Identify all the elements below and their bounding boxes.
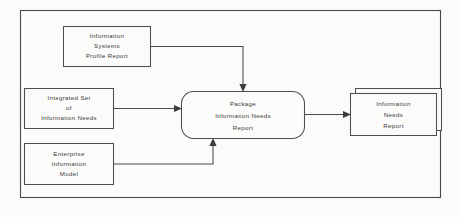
node-enterprise-information-model[interactable]: Enterprise Information Model: [25, 144, 114, 185]
process-label-line-3: Report: [233, 124, 253, 131]
flow-needs-set-to-process: [114, 105, 182, 112]
node-label-line-3: Model: [60, 170, 78, 177]
node-label-line-2: Systems: [94, 42, 120, 49]
node-information-needs-report[interactable]: Information Needs Report: [351, 89, 442, 136]
node-label-line-3: Profile Report: [86, 52, 128, 59]
node-label-line-1: Information: [90, 32, 124, 39]
document-label-line-2: Needs: [384, 111, 403, 118]
process-label-line-2: Information Needs: [215, 112, 271, 119]
node-label-line-1: Integrated Set: [47, 94, 90, 101]
node-information-systems-profile-report[interactable]: Information Systems Profile Report: [64, 27, 151, 67]
document-label-line-1: Information: [376, 100, 410, 107]
flow-process-to-report: [305, 111, 351, 118]
document-label-line-3: Report: [383, 122, 403, 129]
node-package-information-needs-report[interactable]: Package Information Needs Report: [182, 92, 305, 139]
flow-profile-report-to-process: [151, 47, 247, 93]
node-integrated-set-of-information-needs[interactable]: Integrated Set of Information Needs: [25, 89, 114, 129]
flow-arrowhead: [174, 105, 182, 112]
node-label-line-1: Enterprise: [53, 150, 85, 157]
node-label-line-3: Information Needs: [41, 114, 97, 121]
flow-path: [151, 47, 243, 87]
flow-enterprise-model-to-process: [114, 138, 217, 164]
process-label-line-1: Package: [230, 100, 256, 107]
node-label-line-2: Information: [52, 160, 86, 167]
flow-arrowhead: [343, 111, 351, 118]
node-label-line-2: of: [66, 104, 72, 111]
flow-arrowhead: [209, 138, 216, 146]
flow-path: [114, 144, 213, 164]
diagram-canvas: Information Systems Profile Report Integ…: [0, 0, 461, 217]
flow-arrowhead: [239, 84, 246, 92]
